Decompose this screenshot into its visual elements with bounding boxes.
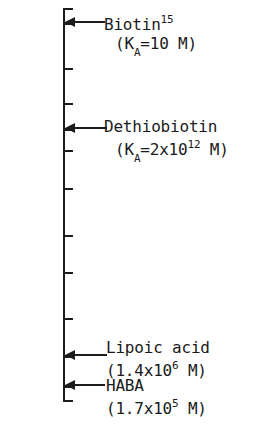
label-haba-affinity: (1.7x105 M) <box>106 395 207 418</box>
arrow-shaft <box>73 127 107 129</box>
arrow-biotin <box>65 16 105 28</box>
axis-tick <box>64 318 73 320</box>
label-biotin-exponent-top: 15 <box>161 13 174 26</box>
axis-top-cap <box>63 8 73 10</box>
axis-tick <box>64 150 73 152</box>
arrow-shaft <box>73 21 105 23</box>
arrow-dethiobiotin <box>65 122 107 134</box>
label-dethiobiotin-name: Dethiobiotin <box>104 117 229 136</box>
label-lipoic-acid: Lipoic acid (1.4x106 M) <box>106 338 210 380</box>
axis-bottom-cap <box>63 400 73 402</box>
label-biotin-affinity: (KA=10 M) <box>104 34 197 59</box>
label-biotin-name: Biotin15 <box>104 11 197 34</box>
label-haba: HABA (1.7x105 M) <box>106 376 207 418</box>
label-haba-name: HABA <box>106 376 207 395</box>
label-biotin: Biotin15 (KA=10 M) <box>104 11 197 60</box>
label-dethiobiotin-affinity: (KA=2x1012 M) <box>104 136 229 166</box>
arrow-lipoic-acid <box>65 349 107 361</box>
arrow-shaft <box>73 384 105 386</box>
axis-tick <box>64 235 73 237</box>
label-dethiobiotin: Dethiobiotin (KA=2x1012 M) <box>104 117 229 166</box>
axis-tick <box>64 272 73 274</box>
arrow-shaft <box>73 354 107 356</box>
binding-affinity-scale-figure: Log KA Biotin15 (KA=10 M) Dethiobiotin (… <box>0 0 279 440</box>
axis-tick <box>64 103 73 105</box>
axis-tick <box>64 188 73 190</box>
axis-tick <box>64 68 73 70</box>
label-lipoic-acid-name: Lipoic acid <box>106 338 210 357</box>
arrow-haba <box>65 379 105 391</box>
